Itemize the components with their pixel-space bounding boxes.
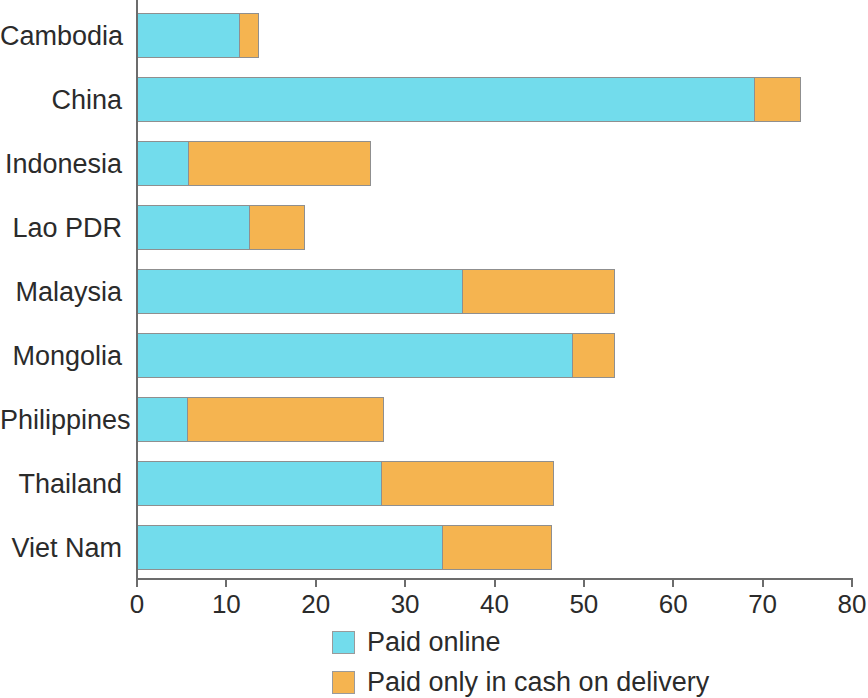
y-axis-category-label: Viet Nam <box>0 532 122 564</box>
y-axis-category-labels: CambodiaChinaIndonesiaLao PDRMalaysiaMon… <box>0 0 128 578</box>
bar-segment[interactable] <box>442 525 553 570</box>
x-axis-tick <box>762 578 764 587</box>
bar-row <box>137 141 371 186</box>
legend-swatch-icon <box>332 671 355 694</box>
bar-segment[interactable] <box>137 461 382 506</box>
x-axis-tick-label: 50 <box>569 588 598 620</box>
legend-label: Paid online <box>367 626 501 658</box>
bar-segment[interactable] <box>137 333 573 378</box>
bar-segment[interactable] <box>137 13 240 58</box>
bar-segment[interactable] <box>239 13 260 58</box>
bar-segment[interactable] <box>754 77 801 122</box>
x-axis-tick-label: 30 <box>391 588 420 620</box>
x-axis-tick-label: 10 <box>212 588 241 620</box>
bar-row <box>137 269 615 314</box>
x-axis-tick-label: 20 <box>301 588 330 620</box>
bar-row <box>137 205 305 250</box>
bar-segment[interactable] <box>137 525 443 570</box>
x-axis-tick <box>851 578 853 587</box>
bar-segment[interactable] <box>462 269 615 314</box>
y-axis-category-label: Malaysia <box>0 276 122 308</box>
chart-legend: Paid online Paid only in cash on deliver… <box>0 620 868 693</box>
bar-segment[interactable] <box>137 77 755 122</box>
bar-segment[interactable] <box>249 205 305 250</box>
x-axis-tick <box>404 578 406 587</box>
bar-segment[interactable] <box>137 141 189 186</box>
bar-segment[interactable] <box>381 461 554 506</box>
y-axis-category-label: Thailand <box>0 468 122 500</box>
x-axis-tick <box>494 578 496 587</box>
x-axis-tick-label: 60 <box>659 588 688 620</box>
legend-swatch-icon <box>332 631 355 654</box>
bar-row <box>137 13 259 58</box>
legend-item-paid-cash-on-delivery[interactable]: Paid only in cash on delivery <box>332 666 709 698</box>
y-axis-category-label: China <box>0 84 122 116</box>
y-axis-category-label: Indonesia <box>0 148 122 180</box>
bar-segment[interactable] <box>188 141 371 186</box>
x-axis-tick <box>583 578 585 587</box>
y-axis-category-label: Cambodia <box>0 20 122 52</box>
y-axis-category-label: Lao PDR <box>0 212 122 244</box>
x-axis-tick-label: 0 <box>130 588 144 620</box>
bar-row <box>137 77 801 122</box>
legend-item-paid-online[interactable]: Paid online <box>332 626 501 658</box>
y-axis-category-label: Mongolia <box>0 340 122 372</box>
x-axis-tick-label: 80 <box>838 588 867 620</box>
x-axis-tick-label: 40 <box>480 588 509 620</box>
y-axis-category-label: Philippines <box>0 404 122 436</box>
bar-segment[interactable] <box>187 397 384 442</box>
x-axis-tick <box>225 578 227 587</box>
legend-label: Paid only in cash on delivery <box>367 666 709 698</box>
bar-segment[interactable] <box>137 397 188 442</box>
bar-row <box>137 525 552 570</box>
x-axis-tick <box>672 578 674 587</box>
x-axis-tick-label: 70 <box>748 588 777 620</box>
x-axis-tick <box>136 578 138 587</box>
y-axis-line <box>136 0 138 578</box>
bar-row <box>137 461 554 506</box>
bar-segment[interactable] <box>137 269 463 314</box>
bar-row <box>137 333 615 378</box>
plot-area <box>137 0 852 578</box>
bar-segment[interactable] <box>137 205 250 250</box>
bar-segment[interactable] <box>572 333 615 378</box>
bar-row <box>137 397 384 442</box>
x-axis-tick <box>315 578 317 587</box>
